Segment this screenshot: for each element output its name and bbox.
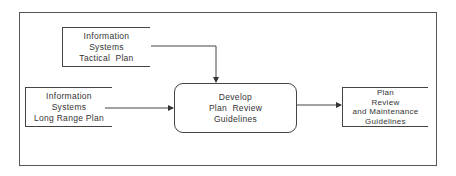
edges-layer — [0, 0, 456, 176]
edge-tactical-to-develop — [151, 46, 216, 82]
